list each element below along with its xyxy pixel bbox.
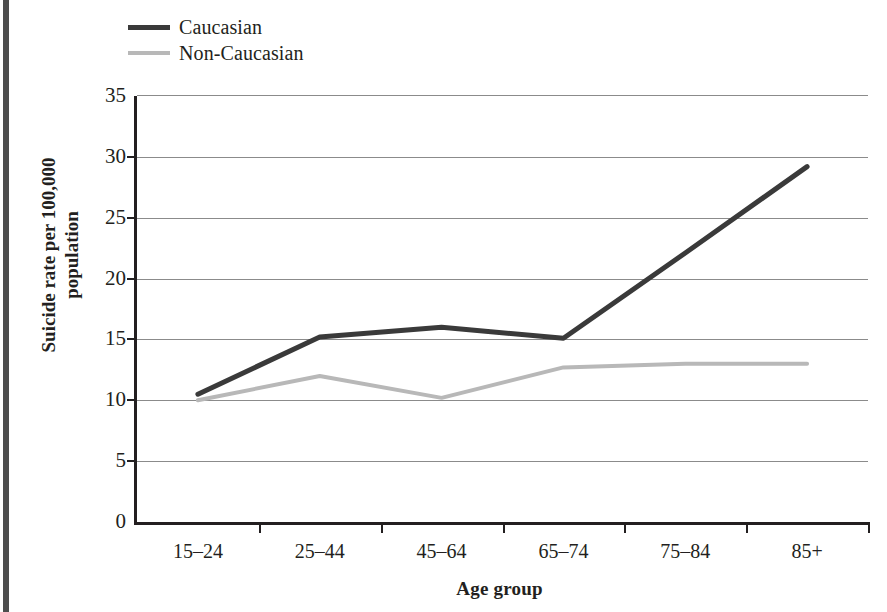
x-tick-mark <box>259 522 261 533</box>
y-tick-label: 5 <box>116 450 127 471</box>
x-tick-label: 65–74 <box>538 540 588 562</box>
y-tick-mark <box>127 278 137 280</box>
y-tick-label: 0 <box>116 511 127 532</box>
plot-area: 05101520253035 15–2425–4445–6465–7475–84… <box>134 96 868 525</box>
x-axis-title: Age group <box>134 578 865 600</box>
x-tick-label: 85+ <box>791 540 822 562</box>
x-tick-mark <box>624 522 626 533</box>
y-tick-label: 35 <box>105 85 126 106</box>
x-tick-label: 15–24 <box>173 540 223 562</box>
x-tick-mark <box>746 522 748 533</box>
y-tick-mark <box>127 217 137 219</box>
series-layer <box>137 96 868 522</box>
y-tick-mark <box>127 399 137 401</box>
y-tick-label: 15 <box>105 329 126 350</box>
y-tick-label: 20 <box>105 268 126 289</box>
x-tick-mark <box>381 522 383 533</box>
y-axis-title: Suicide rate per 100,000 population <box>37 135 83 375</box>
y-tick-label: 25 <box>105 207 126 228</box>
x-tick-label: 45–64 <box>417 540 467 562</box>
line-chart: 05101520253035 15–2425–4445–6465–7475–84… <box>0 0 887 612</box>
series-line-non-caucasian <box>198 364 807 401</box>
y-tick-label: 10 <box>105 389 126 410</box>
y-tick-mark <box>127 156 137 158</box>
y-tick-mark <box>127 460 137 462</box>
figure-page: Caucasian Non-Caucasian 05101520253035 1… <box>0 0 887 612</box>
y-tick-label: 30 <box>105 146 126 167</box>
y-tick-mark <box>127 338 137 340</box>
x-tick-label: 25–44 <box>295 540 345 562</box>
x-tick-label: 75–84 <box>660 540 710 562</box>
x-tick-mark <box>503 522 505 533</box>
x-tick-mark <box>868 522 870 533</box>
series-line-caucasian <box>198 167 807 395</box>
